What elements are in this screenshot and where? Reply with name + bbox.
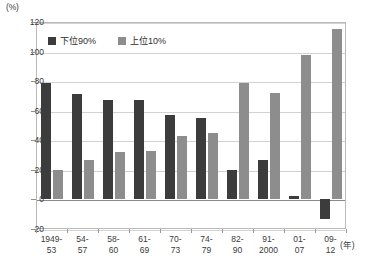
- x-axis-label: 54-57: [76, 234, 88, 255]
- bar-low90: [41, 83, 51, 200]
- x-label-line: 74-: [200, 234, 212, 245]
- bar-group: [98, 22, 129, 229]
- bar-low90: [134, 100, 144, 199]
- x-axis-label: 70-73: [169, 234, 181, 255]
- bar-top10: [301, 55, 311, 200]
- bar-low90: [103, 100, 113, 199]
- x-label-line: 1949-: [41, 234, 63, 245]
- x-label-line: 82-: [231, 234, 243, 245]
- bar-top10: [332, 29, 342, 199]
- bars-layer: [36, 22, 346, 229]
- legend-swatch-top10-icon: [118, 37, 126, 45]
- x-label-line: 69: [138, 245, 150, 256]
- bar-chart: (%) 120100806040200-20 1949-5354-5758-60…: [0, 0, 366, 264]
- x-tickmark: [284, 229, 285, 233]
- x-label-line: 12: [324, 245, 336, 256]
- x-axis-unit-label: (年): [340, 238, 355, 250]
- x-label-line: 79: [200, 245, 212, 256]
- legend-label-top10: 上位10%: [130, 34, 166, 47]
- bar-group: [67, 22, 98, 229]
- bar-top10: [146, 151, 156, 200]
- x-tickmark: [67, 229, 68, 233]
- x-label-line: 58-: [107, 234, 119, 245]
- x-label-line: 70-: [169, 234, 181, 245]
- bar-top10: [208, 133, 218, 200]
- x-axis-label: 74-79: [200, 234, 212, 255]
- legend-item-low90: 下位90%: [48, 34, 96, 47]
- x-axis-label: 09-12: [324, 234, 336, 255]
- x-label-line: 01-: [293, 234, 305, 245]
- legend-label-low90: 下位90%: [60, 34, 96, 47]
- x-label-line: 2000: [259, 245, 278, 256]
- x-axis-label: 91-2000: [259, 234, 278, 255]
- x-axis-label: 58-60: [107, 234, 119, 255]
- x-label-line: 61-: [138, 234, 150, 245]
- bar-low90: [196, 118, 206, 199]
- x-tickmark: [315, 229, 316, 233]
- bar-top10: [239, 83, 249, 200]
- x-label-line: 54-: [76, 234, 88, 245]
- x-tickmark: [36, 229, 37, 233]
- bar-group: [315, 22, 346, 229]
- x-axis-label: 61-69: [138, 234, 150, 255]
- x-axis-label: 1949-53: [41, 234, 63, 255]
- bar-group: [284, 22, 315, 229]
- bar-top10: [53, 170, 63, 200]
- x-label-line: 60: [107, 245, 119, 256]
- x-label-line: 57: [76, 245, 88, 256]
- x-tickmark: [346, 229, 347, 233]
- legend-swatch-low90-icon: [48, 37, 56, 45]
- x-tickmark: [129, 229, 130, 233]
- bar-low90: [320, 199, 330, 218]
- bar-top10: [270, 93, 280, 199]
- bar-top10: [84, 160, 94, 200]
- x-tickmark: [191, 229, 192, 233]
- x-axis-label: 01-07: [293, 234, 305, 255]
- chart-legend: 下位90% 上位10%: [48, 34, 166, 47]
- x-tickmark: [160, 229, 161, 233]
- x-label-line: 07: [293, 245, 305, 256]
- x-label-line: 73: [169, 245, 181, 256]
- y-axis-unit-label: (%): [6, 2, 19, 12]
- x-label-line: 91-: [259, 234, 278, 245]
- x-tickmark: [98, 229, 99, 233]
- bar-low90: [227, 170, 237, 200]
- bar-top10: [115, 152, 125, 199]
- bar-group: [222, 22, 253, 229]
- x-label-line: 90: [231, 245, 243, 256]
- x-tickmark: [222, 229, 223, 233]
- bar-low90: [165, 115, 175, 199]
- bar-top10: [177, 136, 187, 200]
- bar-group: [160, 22, 191, 229]
- bar-group: [191, 22, 222, 229]
- legend-item-top10: 上位10%: [118, 34, 166, 47]
- x-tickmark: [253, 229, 254, 233]
- bar-low90: [72, 94, 82, 199]
- x-axis-label: 82-90: [231, 234, 243, 255]
- bar-group: [36, 22, 67, 229]
- bar-group: [129, 22, 160, 229]
- bar-low90: [258, 160, 268, 200]
- x-label-line: 09-: [324, 234, 336, 245]
- bar-group: [253, 22, 284, 229]
- bar-low90: [289, 196, 299, 199]
- x-label-line: 53: [41, 245, 63, 256]
